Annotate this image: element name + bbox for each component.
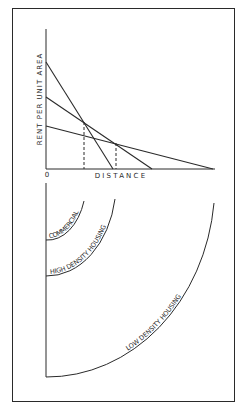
commercial-zone-label: COMMERCIAL xyxy=(48,209,80,240)
bid-rent-diagram: RENT PER UNIT AREA 0 DISTANCE COMMERCIAL… xyxy=(0,0,247,412)
commercial-bid-rent-line xyxy=(46,62,113,169)
low-density-bid-rent-line xyxy=(46,126,213,169)
origin-label: 0 xyxy=(45,171,49,179)
low-density-zone-label: LOW DENSITY HOUSING xyxy=(124,293,182,353)
high-density-bid-rent-line xyxy=(46,97,152,169)
y-axis-label: RENT PER UNIT AREA xyxy=(36,53,44,146)
x-axis-label: DISTANCE xyxy=(95,172,148,180)
